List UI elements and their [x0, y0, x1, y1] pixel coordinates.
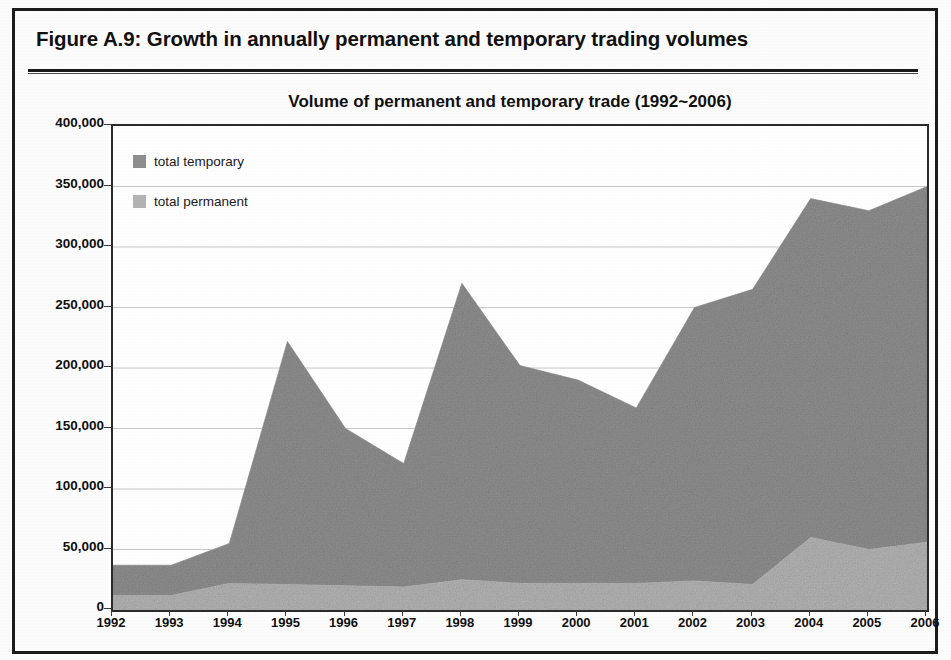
- x-axis-tick-mark: [867, 610, 868, 616]
- x-axis-tick-label: 1993: [139, 615, 199, 630]
- y-axis-tick-label: 200,000: [30, 357, 104, 372]
- x-axis-tick-label: 2005: [837, 615, 897, 630]
- x-axis-tick-mark: [925, 610, 926, 616]
- area-series-total-temporary: [113, 187, 927, 596]
- legend-label: total permanent: [154, 194, 248, 209]
- legend-entry: total permanent: [133, 192, 343, 210]
- x-axis-tick-label: 1999: [488, 615, 548, 630]
- x-axis-tick-mark: [809, 610, 810, 616]
- legend-label: total temporary: [154, 154, 244, 169]
- legend-swatch-icon: [133, 155, 146, 168]
- x-axis-tick-mark: [285, 610, 286, 616]
- y-axis-tick-mark: [104, 548, 111, 549]
- legend-swatch-icon: [133, 195, 146, 208]
- x-axis-tick-label: 1992: [81, 615, 141, 630]
- y-axis-tick-label: 300,000: [30, 236, 104, 251]
- x-axis-tick-mark: [634, 610, 635, 616]
- y-axis-tick-mark: [104, 306, 111, 307]
- x-axis-tick-mark: [227, 610, 228, 616]
- y-axis-tick-label: 350,000: [30, 176, 104, 191]
- y-axis-tick-mark: [104, 366, 111, 367]
- y-axis-tick-mark: [104, 124, 111, 125]
- x-axis-tick-label: 2001: [604, 615, 664, 630]
- legend-entry: total temporary: [133, 152, 343, 170]
- y-axis-tick-label: 100,000: [30, 478, 104, 493]
- x-axis-tick-mark: [692, 610, 693, 616]
- x-axis-tick-mark: [518, 610, 519, 616]
- x-axis-tick-mark: [344, 610, 345, 616]
- x-axis-tick-label: 1998: [430, 615, 490, 630]
- x-axis-tick-mark: [402, 610, 403, 616]
- chart-legend: total temporarytotal permanent: [133, 152, 343, 232]
- x-axis-tick-label: 1997: [372, 615, 432, 630]
- x-axis-tick-label: 2006: [895, 615, 951, 630]
- x-axis-tick-mark: [460, 610, 461, 616]
- x-axis-tick-label: 2000: [546, 615, 606, 630]
- y-axis-tick-mark: [104, 245, 111, 246]
- x-axis-tick-label: 2004: [779, 615, 839, 630]
- y-axis: 400,000350,000300,000250,000200,000150,0…: [26, 0, 104, 660]
- y-axis-tick-label: 250,000: [30, 297, 104, 312]
- chart-title: Volume of permanent and temporary trade …: [110, 92, 910, 112]
- y-axis-tick-mark: [104, 487, 111, 488]
- y-axis-tick-mark: [104, 427, 111, 428]
- x-axis-tick-mark: [111, 610, 112, 616]
- y-axis-tick-label: 50,000: [30, 539, 104, 554]
- scanned-page: Figure A.9: Growth in annually permanent…: [0, 0, 951, 660]
- x-axis-tick-label: 1995: [255, 615, 315, 630]
- y-axis-tick-mark: [104, 185, 111, 186]
- x-axis-tick-label: 1994: [197, 615, 257, 630]
- y-axis-tick-label: 400,000: [30, 115, 104, 130]
- y-axis-tick-label: 150,000: [30, 418, 104, 433]
- y-axis-tick-label: 0: [30, 599, 104, 614]
- x-axis-tick-mark: [576, 610, 577, 616]
- x-axis-tick-label: 2003: [721, 615, 781, 630]
- x-axis-tick-mark: [169, 610, 170, 616]
- y-axis-tick-mark: [104, 608, 111, 609]
- x-axis-tick-mark: [751, 610, 752, 616]
- x-axis-tick-label: 2002: [662, 615, 722, 630]
- x-axis-tick-label: 1996: [314, 615, 374, 630]
- area-chart: Volume of permanent and temporary trade …: [0, 0, 951, 660]
